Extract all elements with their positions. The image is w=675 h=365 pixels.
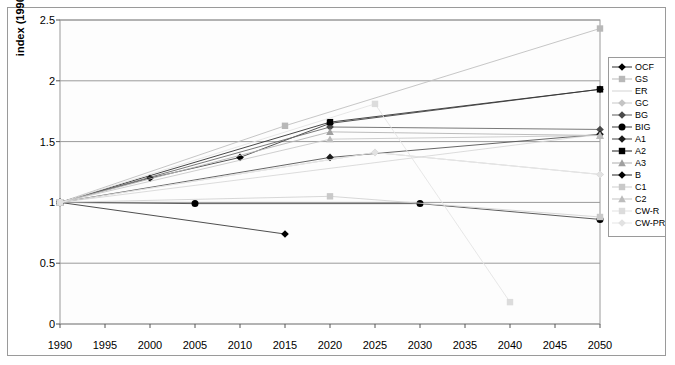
legend-item-er[interactable]: ER — [611, 85, 663, 97]
legend-item-c1[interactable]: C1 — [611, 181, 663, 193]
legend-item-cw-pr[interactable]: CW-PR — [611, 217, 663, 229]
legend-key-big-icon — [611, 121, 633, 133]
legend-label: CW-PR — [633, 217, 665, 229]
legend-item-c2[interactable]: C2 — [611, 193, 663, 205]
data-point-marker — [507, 299, 513, 305]
data-point-marker — [327, 193, 333, 199]
data-point-marker — [618, 171, 626, 179]
data-point-marker — [618, 63, 626, 71]
legend-key-c2-icon — [611, 193, 633, 205]
legend-item-gc[interactable]: GC — [611, 97, 663, 109]
legend-item-bg[interactable]: BG — [611, 109, 663, 121]
chart-page: index (1990 = 1) 00.511.522.5 1990199520… — [0, 0, 675, 365]
data-point-marker — [619, 208, 625, 214]
legend-item-a1[interactable]: A1 — [611, 133, 663, 145]
legend-key-c1-icon — [611, 181, 633, 193]
data-point-marker — [597, 25, 603, 31]
legend-key-cw-pr-icon — [611, 217, 633, 229]
data-point-marker — [618, 111, 626, 119]
legend-label: GS — [633, 73, 648, 85]
legend-key-a2-icon — [611, 145, 633, 157]
legend-key-b-icon — [611, 169, 633, 181]
plot-frame — [60, 20, 600, 324]
legend-key-ocf-icon — [611, 61, 633, 73]
legend-label: A2 — [633, 145, 646, 157]
legend-item-cw-r[interactable]: CW-R — [611, 205, 663, 217]
legend-item-big[interactable]: BIG — [611, 121, 663, 133]
data-point-marker — [282, 123, 288, 129]
legend-key-cw-r-icon — [611, 205, 633, 217]
data-point-marker — [618, 135, 626, 143]
legend-key-bg-icon — [611, 109, 633, 121]
legend-key-gs-icon — [611, 73, 633, 85]
data-point-marker — [618, 99, 626, 107]
legend-label: BIG — [633, 121, 651, 133]
legend-label: CW-R — [633, 205, 659, 217]
legend-item-a3[interactable]: A3 — [611, 157, 663, 169]
legend-item-b[interactable]: B — [611, 169, 663, 181]
legend-key-a3-icon — [611, 157, 633, 169]
legend-label: BG — [633, 109, 648, 121]
data-point-marker — [619, 184, 625, 190]
legend-item-gs[interactable]: GS — [611, 73, 663, 85]
legend-key-gc-icon — [611, 97, 633, 109]
legend-key-a1-icon — [611, 133, 633, 145]
legend-key-er-icon — [611, 85, 633, 97]
data-point-marker — [597, 86, 603, 92]
data-point-marker — [597, 214, 603, 220]
legend-item-ocf[interactable]: OCF — [611, 61, 663, 73]
legend-item-a2[interactable]: A2 — [611, 145, 663, 157]
data-point-marker — [618, 219, 626, 227]
chart-legend: OCFGSERGCBGBIGA1A2A3BC1C2CW-RCW-PR — [608, 57, 666, 237]
data-point-marker — [372, 101, 378, 107]
line-chart-plot — [0, 0, 675, 365]
data-point-marker — [619, 76, 625, 82]
legend-label: C2 — [633, 193, 647, 205]
legend-label: A1 — [633, 133, 646, 145]
legend-label: C1 — [633, 181, 647, 193]
data-point-marker — [192, 200, 199, 207]
data-point-marker — [327, 119, 333, 125]
data-point-marker — [619, 124, 626, 131]
legend-label: OCF — [633, 61, 654, 73]
data-point-marker — [619, 148, 625, 154]
legend-label: GC — [633, 97, 649, 109]
legend-label: A3 — [633, 157, 646, 169]
legend-label: ER — [633, 85, 648, 97]
legend-label: B — [633, 169, 641, 181]
